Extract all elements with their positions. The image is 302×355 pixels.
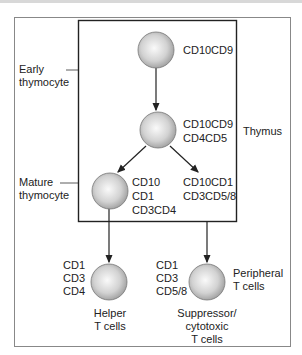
mature-line-1: Mature	[19, 176, 69, 189]
marker: CD10CD9	[183, 117, 233, 131]
marker: CD4CD5	[183, 131, 233, 145]
suppressor-line-1: Suppressor/	[172, 307, 242, 320]
node-2-markers: CD10CD9 CD4CD5	[183, 117, 233, 145]
suppressor-name: Suppressor/ cytotoxic T cells	[172, 307, 242, 346]
cell-node-1	[138, 32, 174, 68]
early-thymocyte-label: Early thymocyte	[19, 63, 69, 89]
cell-node-2	[140, 112, 176, 148]
suppressor-line-2: cytotoxic	[172, 320, 242, 333]
peripheral-line-1: Peripheral	[233, 267, 283, 280]
node-3b-markers: CD10CD1 CD3CD5/8	[183, 175, 236, 203]
marker: CD1	[156, 259, 187, 272]
node-3-markers: CD10 CD1 CD3CD4	[132, 175, 176, 217]
marker: CD3	[156, 272, 187, 285]
cell-helper	[91, 264, 127, 300]
marker: CD3CD5/8	[183, 189, 236, 203]
cell-node-3	[92, 173, 128, 209]
arrow-n2-n3b	[170, 146, 198, 172]
marker: CD10CD1	[183, 175, 236, 189]
suppressor-line-3: T cells	[172, 333, 242, 346]
marker: CD5/8	[156, 285, 187, 298]
marker: CD1	[132, 189, 176, 203]
marker: CD10CD9	[183, 44, 233, 57]
mature-line-2: thymocyte	[19, 189, 69, 202]
helper-name: Helper T cells	[88, 307, 132, 333]
marker: CD3CD4	[132, 203, 176, 217]
peripheral-line-2: T cells	[233, 280, 283, 293]
suppressor-markers: CD1 CD3 CD5/8	[156, 259, 187, 298]
helper-line-1: Helper	[88, 307, 132, 320]
helper-markers: CD1 CD3 CD4	[63, 259, 85, 298]
cell-suppressor	[189, 264, 225, 300]
marker: CD3	[63, 272, 85, 285]
marker: CD10	[132, 175, 176, 189]
early-line-1: Early	[19, 63, 69, 76]
early-line-2: thymocyte	[19, 76, 69, 89]
peripheral-label: Peripheral T cells	[233, 267, 283, 293]
helper-line-2: T cells	[88, 320, 132, 333]
arrow-n2-n3	[118, 146, 146, 172]
marker: CD1	[63, 259, 85, 272]
node-1-markers: CD10CD9	[183, 44, 233, 57]
marker: CD4	[63, 285, 85, 298]
thymus-label: Thymus	[243, 125, 282, 138]
mature-thymocyte-label: Mature thymocyte	[19, 176, 69, 202]
